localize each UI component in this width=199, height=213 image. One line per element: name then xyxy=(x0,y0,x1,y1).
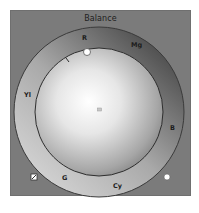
label-cyan: Cy xyxy=(113,182,123,190)
label-green: G xyxy=(62,174,67,182)
balance-wheel[interactable]: R Mg B Cy G Yl xyxy=(0,0,199,213)
label-blue: B xyxy=(170,124,175,132)
circle-handle-icon[interactable] xyxy=(84,49,91,56)
label-yellow: Yl xyxy=(23,91,31,99)
label-red: R xyxy=(82,34,87,42)
inner-sphere[interactable] xyxy=(35,48,163,176)
center-marker-icon[interactable] xyxy=(98,108,102,111)
reset-button[interactable] xyxy=(31,174,37,180)
circle-dot-icon[interactable] xyxy=(164,174,170,180)
label-magenta: Mg xyxy=(131,41,142,49)
